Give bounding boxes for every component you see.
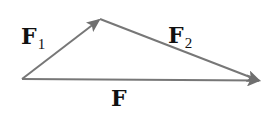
vector-f-resultant bbox=[22, 79, 259, 81]
label-f1-main: F bbox=[21, 23, 37, 49]
label-f-main: F bbox=[111, 85, 127, 111]
label-f1: F1 bbox=[21, 25, 45, 47]
label-f2: F2 bbox=[168, 24, 192, 46]
vector-diagram-canvas bbox=[0, 0, 277, 116]
vector-triangle-diagram: F1 F2 F bbox=[0, 0, 277, 116]
label-f2-main: F bbox=[168, 22, 184, 48]
label-f2-subscript: 2 bbox=[185, 35, 193, 51]
label-f1-subscript: 1 bbox=[38, 36, 46, 52]
label-f-resultant: F bbox=[111, 87, 127, 109]
